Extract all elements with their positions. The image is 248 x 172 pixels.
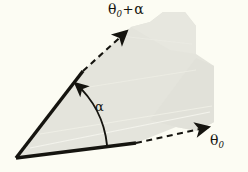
label-theta0: θ0 bbox=[210, 133, 224, 149]
alpha-glyph: α bbox=[134, 1, 143, 17]
label-alpha: α bbox=[95, 100, 104, 113]
angle-diagram-figure: θ0+α θ0 α bbox=[0, 0, 248, 172]
label-theta0-plus-alpha: θ0+α bbox=[108, 2, 144, 18]
alpha-glyph: α bbox=[95, 99, 104, 114]
theta-subscript: 0 bbox=[218, 140, 224, 150]
plus-operator: + bbox=[122, 2, 134, 17]
